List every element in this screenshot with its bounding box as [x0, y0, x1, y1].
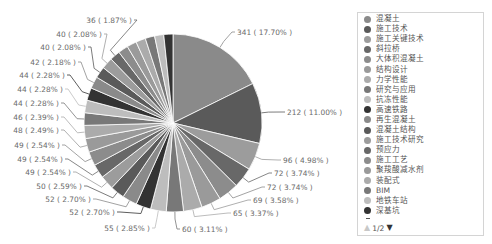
label-line — [93, 199, 130, 207]
label-line — [220, 32, 235, 47]
slice-label: 44 ( 2.28% ) — [13, 99, 59, 108]
label-line — [88, 47, 100, 72]
label-line — [261, 112, 285, 113]
legend-circle-icon — [364, 137, 371, 144]
legend-prev-page-icon[interactable]: ▲ — [364, 224, 370, 232]
legend-item-label: 抗冻性能 — [376, 95, 408, 105]
legend-circle-icon — [364, 86, 371, 93]
legend-item-label: BIM — [376, 186, 390, 196]
label-line — [67, 75, 89, 94]
legend-item[interactable]: 预应力 — [358, 145, 483, 155]
legend-item-label: 斜拉桥 — [376, 44, 400, 54]
legend-item-label: 混凝土 — [376, 14, 400, 24]
legend-item[interactable]: 再生混凝土 — [358, 115, 483, 125]
legend-item-label: 混凝土结构 — [376, 125, 416, 135]
legend-circle-icon — [364, 177, 371, 184]
legend-item[interactable]: 高速铁路 — [358, 105, 483, 115]
legend-item[interactable]: 斜拉桥 — [358, 44, 483, 54]
slice-label: 36 ( 1.87% ) — [86, 16, 132, 25]
slice-label: 52 ( 2.70% ) — [69, 208, 115, 217]
legend-circle-icon — [364, 167, 371, 174]
legend-circle-icon — [364, 56, 371, 63]
legend-page-indicator: 1/2 — [372, 224, 384, 233]
slice-label: 65 ( 3.37% ) — [233, 209, 279, 218]
label-line — [152, 211, 158, 228]
label-line — [175, 212, 180, 229]
label-line — [78, 62, 94, 83]
legend-circle-icon — [364, 197, 371, 204]
slice-label: 49 ( 2.54% ) — [25, 168, 71, 177]
legend-pager: ▲ 1/2 ▼ — [364, 222, 393, 234]
slice-label: 69 ( 3.58% ) — [253, 196, 299, 205]
legend-item[interactable]: 混凝土结构 — [358, 125, 483, 135]
legend-item[interactable]: 研究与应用 — [358, 85, 483, 95]
slice-label: 40 ( 2.08% ) — [56, 30, 102, 39]
legend-item[interactable]: 施工关键技术 — [358, 34, 483, 44]
legend-item-label: 施工技术研究 — [376, 135, 424, 145]
legend-item-label: 施工关键技术 — [376, 34, 424, 44]
legend-circle-icon — [364, 157, 371, 164]
legend: 混凝土施工技术施工关键技术斜拉桥大体积混凝土结构设计力学性能研究与应用抗冻性能高… — [357, 12, 484, 236]
legend-circle-icon — [364, 207, 371, 214]
slice-label: 49 ( 2.54% ) — [17, 155, 63, 164]
legend-item-label: 施工工艺 — [376, 155, 408, 165]
legend-list: 混凝土施工技术施工关键技术斜拉桥大体积混凝土结构设计力学性能研究与应用抗冻性能高… — [358, 14, 483, 222]
slice-label: 49 ( 2.54% ) — [14, 141, 60, 150]
legend-circle-icon — [364, 106, 371, 113]
legend-item-clipped — [366, 218, 370, 219]
slice-label: 55 ( 2.85% ) — [104, 224, 150, 233]
legend-item-label: 大体积混凝土 — [376, 54, 424, 64]
legend-item-label: 聚羧酸减水剂 — [376, 165, 424, 175]
label-line — [102, 34, 107, 63]
legend-circle-icon — [364, 96, 371, 103]
slice-label: 48 ( 2.49% ) — [13, 126, 59, 135]
legend-item[interactable]: 深基坑 — [358, 206, 483, 216]
legend-item-label: 地铁车站 — [376, 196, 408, 206]
legend-item-label: 再生混凝土 — [376, 115, 416, 125]
legend-item[interactable]: 地铁车站 — [358, 196, 483, 206]
legend-item[interactable]: 施工工艺 — [358, 155, 483, 165]
legend-circle-icon — [364, 116, 371, 123]
legend-item-label: 装配式 — [376, 176, 400, 186]
legend-circle-icon — [364, 127, 371, 134]
legend-item[interactable]: 施工技术 — [358, 24, 483, 34]
label-line — [193, 210, 231, 217]
legend-circle-icon — [364, 66, 371, 73]
slice-label: 60 ( 3.11% ) — [182, 225, 228, 234]
slice-label: 52 ( 2.70% ) — [45, 195, 91, 204]
legend-item[interactable]: 力学性能 — [358, 75, 483, 85]
legend-item[interactable]: 大体积混凝土 — [358, 54, 483, 64]
legend-circle-icon — [364, 16, 371, 23]
slice-label: 44 ( 2.28% ) — [19, 71, 65, 80]
label-line — [255, 157, 281, 160]
legend-circle-icon — [364, 36, 371, 43]
legend-item[interactable]: 聚羧酸减水剂 — [358, 165, 483, 175]
legend-item[interactable]: 施工技术研究 — [358, 135, 483, 145]
legend-item-label: 研究与应用 — [376, 85, 416, 95]
legend-circle-icon — [364, 46, 371, 53]
legend-item[interactable]: 装配式 — [358, 176, 483, 186]
slice-label: 212 ( 11.00% ) — [287, 108, 342, 117]
slice-label: 72 ( 3.74% ) — [274, 169, 320, 178]
legend-item[interactable]: 结构设计 — [358, 64, 483, 74]
legend-item-label: 预应力 — [376, 145, 400, 155]
slice-label: 44 ( 2.28% ) — [17, 85, 63, 94]
slice-label: 72 ( 3.74% ) — [267, 183, 313, 192]
legend-circle-icon — [364, 26, 371, 33]
slice-label: 46 ( 2.39% ) — [13, 113, 59, 122]
legend-circle-icon — [364, 76, 371, 83]
legend-item-label: 高速铁路 — [376, 105, 408, 115]
legend-item-label: 施工技术 — [376, 24, 408, 34]
legend-item[interactable]: 混凝土 — [358, 14, 483, 24]
legend-next-page-icon[interactable]: ▼ — [386, 224, 392, 232]
slice-label: 42 ( 2.18% ) — [30, 58, 76, 67]
legend-circle-icon — [364, 147, 371, 154]
slice-label: 50 ( 2.59% ) — [36, 182, 82, 191]
slice-label: 96 ( 4.98% ) — [283, 156, 329, 165]
legend-circle-icon — [364, 187, 371, 194]
legend-item-label: 结构设计 — [376, 65, 408, 75]
legend-item-label: 深基坑 — [376, 206, 400, 216]
legend-item[interactable]: 抗冻性能 — [358, 95, 483, 105]
pie-slices — [84, 34, 262, 212]
legend-item[interactable]: BIM — [358, 186, 483, 196]
